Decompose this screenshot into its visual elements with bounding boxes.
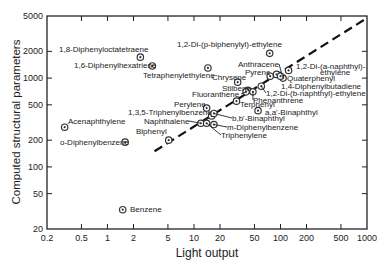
point-label: Naphthalene bbox=[144, 117, 190, 126]
point-label: 1,6-Diphenylhexatriene bbox=[74, 61, 157, 70]
y-tick-label: 500 bbox=[28, 100, 43, 110]
data-point bbox=[120, 206, 126, 212]
x-tick-label: 0.5 bbox=[75, 233, 88, 243]
point-label: Acenaphthylene bbox=[68, 117, 126, 126]
point-label: Tetraphenylethylene bbox=[143, 71, 215, 80]
x-tick-label: 200 bbox=[299, 233, 314, 243]
x-tick-label: 50 bbox=[249, 233, 259, 243]
y-axis-label: Computed structural parameters bbox=[10, 39, 22, 204]
point-label: Chrysene bbox=[212, 73, 247, 82]
marker-dot bbox=[257, 110, 259, 112]
marker-dot bbox=[235, 100, 237, 102]
y-tick-label: 200 bbox=[28, 135, 43, 145]
point-label: b,b'-Binaphthyl bbox=[232, 114, 285, 123]
point-label: Pyrene bbox=[245, 68, 271, 77]
y-tick-label: 100 bbox=[28, 162, 43, 172]
point-label: 1,8-Diphenyloctatetraene bbox=[59, 45, 149, 54]
y-tick-label: 2000 bbox=[23, 46, 43, 56]
marker-dot bbox=[207, 67, 209, 69]
data-point bbox=[285, 67, 291, 73]
x-tick-label: 10 bbox=[189, 233, 199, 243]
marker-dot bbox=[64, 126, 66, 128]
x-tick-label: 0.2 bbox=[41, 233, 54, 243]
y-tick-label: 20 bbox=[33, 224, 43, 234]
scatter-chart: 0.20.51251020501002005001000 20501002005… bbox=[0, 0, 383, 270]
marker-dot bbox=[168, 139, 170, 141]
marker-dot bbox=[287, 69, 289, 71]
marker-dot bbox=[269, 52, 271, 54]
point-label: Biphenyl bbox=[136, 127, 167, 136]
point-label: Benzene bbox=[130, 205, 162, 214]
x-tick-label: 100 bbox=[273, 233, 288, 243]
data-point bbox=[266, 50, 272, 56]
point-label: Fluoranthene bbox=[192, 90, 240, 99]
x-tick-label: 2 bbox=[131, 233, 136, 243]
data-point bbox=[137, 54, 143, 60]
y-tick-label: 50 bbox=[33, 189, 43, 199]
point-label: o-Diphenylbenzene bbox=[60, 138, 129, 147]
x-tick-label: 1000 bbox=[357, 233, 377, 243]
point-label: 1,3,5-Triphenylbenzene bbox=[128, 108, 212, 117]
x-tick-label: 5 bbox=[165, 233, 170, 243]
data-point bbox=[61, 124, 67, 130]
marker-dot bbox=[139, 56, 141, 58]
marker-dot bbox=[279, 75, 281, 77]
point-label: 1,2-Di-(p-biphenylyl)-ethylene bbox=[177, 40, 282, 49]
x-axis-label: Light output bbox=[176, 246, 239, 260]
data-point bbox=[165, 137, 171, 143]
x-tick-label: 20 bbox=[215, 233, 225, 243]
y-tick-label: 1000 bbox=[23, 73, 43, 83]
x-tick-label: 1 bbox=[105, 233, 110, 243]
point-label: Triphenylene bbox=[221, 131, 268, 140]
marker-dot bbox=[122, 209, 124, 211]
y-tick-label: 5000 bbox=[23, 11, 43, 21]
x-tick-label: 500 bbox=[333, 233, 348, 243]
